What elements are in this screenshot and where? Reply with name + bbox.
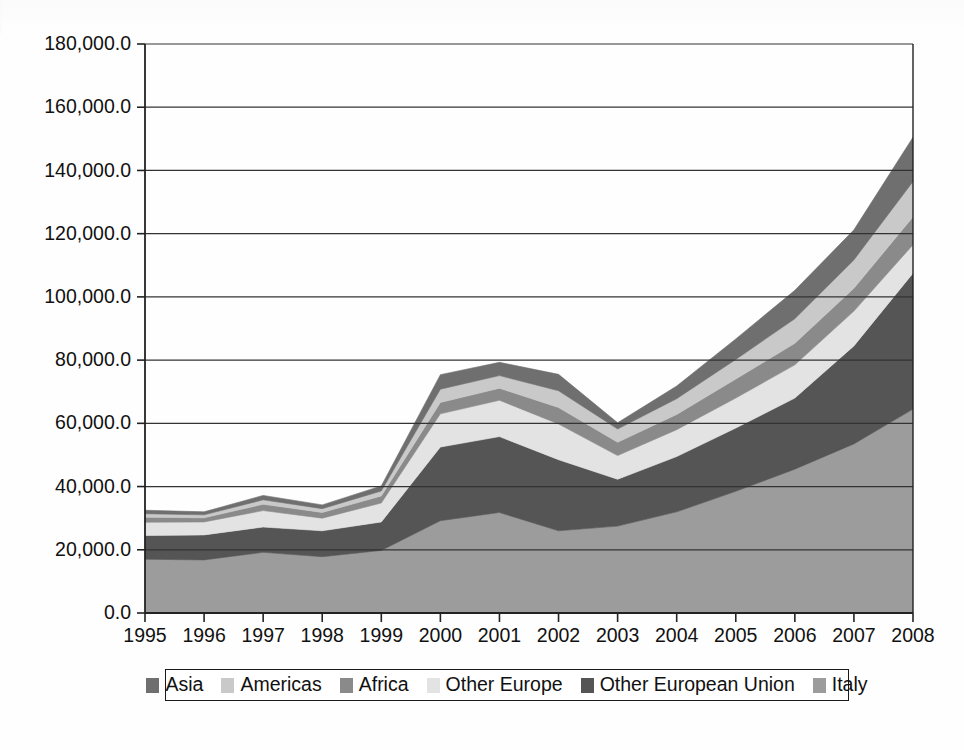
legend-swatch-icon [427, 678, 440, 693]
y-axis-label: 60,000.0 [55, 411, 131, 433]
x-axis-label: 2005 [714, 624, 758, 646]
legend-label: Other Europe [446, 675, 563, 695]
legend-swatch-icon [581, 678, 594, 693]
x-axis-label: 1998 [301, 624, 344, 646]
legend-label: Africa [359, 675, 409, 695]
y-axis-label: 20,000.0 [55, 538, 131, 560]
legend-label: Other European Union [600, 675, 795, 695]
x-axis-label: 2008 [891, 624, 934, 646]
stacked-area-chart: 0.020,000.040,000.060,000.080,000.0100,0… [0, 0, 964, 750]
x-axis-label: 2003 [596, 624, 639, 646]
chart-legend: AsiaAmericasAfricaOther EuropeOther Euro… [165, 669, 849, 701]
legend-item-italy[interactable]: Italy [804, 675, 877, 695]
area-series-group [145, 137, 913, 613]
y-axis-ticks-group: 0.020,000.040,000.060,000.080,000.0100,0… [44, 32, 145, 623]
x-axis-label: 2000 [419, 624, 463, 646]
x-axis-ticks-group: 1995199619971998199920002001200220032004… [123, 613, 934, 646]
legend-swatch-icon [221, 678, 234, 693]
legend-swatch-icon [813, 678, 826, 693]
x-axis-label: 2004 [655, 624, 699, 646]
x-axis-label: 2001 [478, 624, 521, 646]
legend-swatch-icon [340, 678, 353, 693]
legend-label: Asia [165, 675, 203, 695]
legend-label: Italy [832, 675, 868, 695]
legend-item-other-european-union[interactable]: Other European Union [572, 675, 804, 695]
y-axis-label: 80,000.0 [55, 348, 131, 370]
x-axis-label: 2007 [832, 624, 875, 646]
x-axis-label: 1996 [182, 624, 225, 646]
y-axis-label: 140,000.0 [44, 159, 131, 181]
legend-label: Americas [240, 675, 321, 695]
y-axis-label: 100,000.0 [44, 285, 131, 307]
x-axis-label: 1995 [123, 624, 167, 646]
x-axis-label: 1997 [241, 624, 284, 646]
x-axis-label: 2006 [773, 624, 816, 646]
legend-item-other-europe[interactable]: Other Europe [418, 675, 572, 695]
legend-swatch-icon [146, 678, 159, 693]
y-axis-label: 40,000.0 [55, 475, 131, 497]
y-axis-label: 0.0 [104, 601, 131, 623]
y-axis-label: 180,000.0 [44, 32, 131, 54]
legend-item-americas[interactable]: Americas [212, 675, 330, 695]
legend-item-africa[interactable]: Africa [331, 675, 418, 695]
page-background: 0.020,000.040,000.060,000.080,000.0100,0… [0, 0, 964, 750]
y-axis-label: 120,000.0 [44, 222, 131, 244]
x-axis-label: 1999 [360, 624, 403, 646]
y-axis-label: 160,000.0 [44, 95, 131, 117]
chart-svg: 0.020,000.040,000.060,000.080,000.0100,0… [0, 0, 964, 750]
legend-item-asia[interactable]: Asia [137, 675, 212, 695]
x-axis-label: 2002 [537, 624, 580, 646]
